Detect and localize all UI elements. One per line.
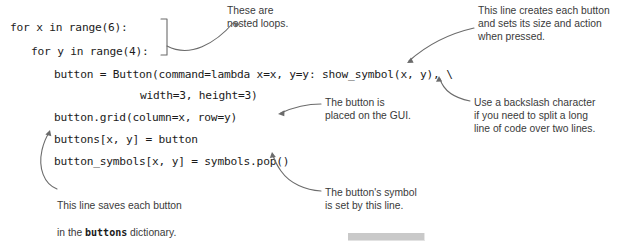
leader-nested-loops: [167, 22, 234, 50]
leader-creates-button: [409, 28, 474, 61]
code-line-button-grid: button.grid(column=x, row=y): [54, 112, 237, 123]
annotated-code-figure: for x in range(6): for y in range(4): bu…: [0, 0, 621, 245]
annotation-saves-button-line1: This line saves each button: [57, 200, 182, 211]
annotation-nested-loops: These are nested loops.: [227, 4, 288, 30]
leader-creates-button-arrowhead: [407, 57, 414, 63]
code-line-for-y: for y in range(4):: [31, 46, 149, 57]
leader-placed-on-gui: [281, 104, 321, 113]
code-line-for-x: for x in range(6):: [10, 22, 128, 33]
annotation-saves-button-line2-post: dictionary.: [127, 227, 176, 238]
leader-saves-button-arrowhead: [45, 130, 51, 136]
leader-placed-on-gui-arrowhead: [278, 110, 285, 116]
annotation-creates-button: This line creates each button and sets i…: [478, 4, 610, 44]
annotation-placed-on-gui: The button is placed on the GUI.: [325, 96, 411, 122]
gray-bar-decoration: [348, 233, 425, 241]
annotation-backslash: Use a backslash character if you need to…: [474, 96, 595, 136]
annotation-saves-button-line2-pre: in the: [57, 227, 85, 238]
annotation-symbol-set: The button's symbol is set by this line.: [325, 186, 417, 212]
annotation-saves-button: This line saves each button in the butto…: [57, 186, 182, 240]
code-line-width-height: width=3, height=3): [140, 90, 258, 101]
annotation-saves-button-code-term: buttons: [85, 227, 127, 238]
code-line-button-assign: button = Button(command=lambda x=x, y=y:…: [54, 69, 453, 80]
code-line-buttons-dict: buttons[x, y] = button: [54, 134, 198, 145]
leader-backslash: [440, 79, 470, 101]
loop-bracket: [161, 19, 167, 55]
code-line-button-symbols: button_symbols[x, y] = symbols.pop(): [54, 156, 289, 167]
